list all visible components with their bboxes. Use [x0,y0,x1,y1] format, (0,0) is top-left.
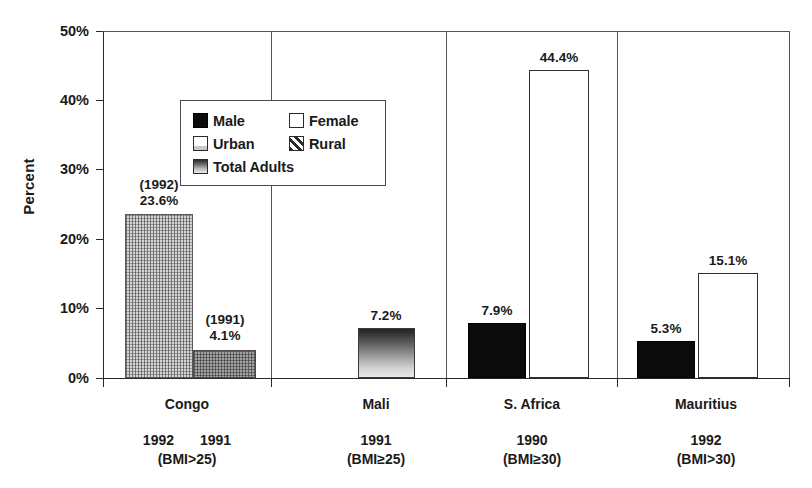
y-tick-label-10: 10% [41,301,89,316]
bar-chart: Percent 50% 40% 30% 20% 10% 0% (1992) 23… [0,0,812,488]
y-tick-label-30: 30% [41,162,89,177]
y-tick-label-20: 20% [41,232,89,247]
category-name-mali: Mali [296,396,456,412]
group-tick-1 [271,378,272,387]
category-congo: Congo 19921991 (BMI>25) [97,396,277,467]
legend-label-total-adults: Total Adults [213,159,294,175]
category-name-safrica: S. Africa [452,396,612,412]
group-tick-2 [446,378,447,387]
bar-mauritius-male [637,341,695,378]
bar-pct-congo-1992: 23.6% [140,193,178,208]
bar-mauritius-female [698,273,758,378]
category-year-congo-a: 1992 [143,432,174,448]
legend-label-male: Male [213,113,245,129]
legend-item-male: Male [193,113,289,129]
legend-label-urban: Urban [213,136,254,152]
category-name-mauritius: Mauritius [622,396,790,412]
category-bmi-mauritius: (BMI>30) [622,451,790,467]
legend-label-rural: Rural [309,136,346,152]
bar-value-safrica-female: 44.4% [503,50,615,66]
category-years-mali: 1991 [296,432,456,448]
bar-safrica-female [529,70,589,378]
legend-item-total-adults: Total Adults [193,159,294,175]
group-separator-2 [446,31,447,378]
legend-row-2: Urban Rural [193,132,385,155]
y-tick-label-40: 40% [41,93,89,108]
legend: Male Female Urban Rural Total Adults [180,100,386,186]
legend-item-female: Female [289,113,358,129]
y-axis-title: Percent [20,132,37,242]
category-bmi-congo: (BMI>25) [97,451,277,467]
legend-item-urban: Urban [193,136,289,152]
bar-pct-congo-1991: 4.1% [210,328,241,343]
category-safrica: S. Africa 1990 (BMI≥30) [452,396,612,467]
category-mali: Mali 1991 (BMI≥25) [296,396,456,467]
y-tick-mark-10 [96,308,103,309]
category-bmi-mali: (BMI≥25) [296,451,456,467]
bar-value-congo-1991: (1991) 4.1% [167,312,283,344]
category-years-congo: 19921991 [97,432,277,448]
y-tick-label-0: 0% [41,371,89,386]
legend-row-3: Total Adults [193,155,385,178]
y-tick-mark-0 [96,378,103,379]
category-name-congo: Congo [97,396,277,412]
category-bmi-safrica: (BMI≥30) [452,451,612,467]
category-mauritius: Mauritius 1992 (BMI>30) [622,396,790,467]
bar-congo-1992 [125,214,193,378]
legend-swatch-female-icon [289,113,304,128]
plot-right-border [789,31,790,379]
bar-congo-1991 [193,350,256,378]
category-year-congo-b: 1991 [200,432,231,448]
bar-year-congo-1991: (1991) [167,312,283,328]
group-tick-3 [617,378,618,387]
legend-swatch-total-adults-icon [193,159,208,174]
group-tick-right [789,378,790,387]
bar-value-mali-total: 7.2% [328,308,444,324]
y-tick-mark-40 [96,100,103,101]
group-tick-left [103,378,104,387]
y-tick-mark-20 [96,239,103,240]
legend-swatch-rural-icon [289,136,304,151]
legend-row-1: Male Female [193,109,385,132]
bar-value-mauritius-female: 15.1% [672,253,784,269]
category-years-mauritius: 1992 [622,432,790,448]
bar-mali-total [358,328,415,378]
legend-swatch-urban-icon [193,136,208,151]
y-tick-label-50: 50% [41,24,89,39]
legend-label-female: Female [309,113,358,129]
y-tick-mark-50 [96,31,103,32]
category-years-safrica: 1990 [452,432,612,448]
bar-safrica-male [468,323,526,378]
legend-swatch-male-icon [193,113,208,128]
y-tick-mark-30 [96,169,103,170]
legend-item-rural: Rural [289,136,346,152]
